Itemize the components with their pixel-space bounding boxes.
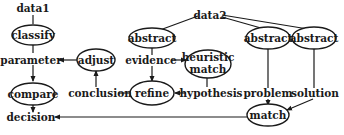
edge-data2-abstract1: [160, 16, 198, 30]
solution-label: solution: [291, 87, 339, 99]
data1-label: data1: [16, 2, 49, 14]
node-compare: compare: [8, 83, 59, 105]
refine-label: refine: [135, 87, 169, 99]
heuristic-match-label-1: heuristic: [182, 51, 235, 63]
edge-solution-match: [287, 99, 313, 110]
node-abstract-3: abstract: [290, 27, 339, 49]
abstract-2-label: abstract: [244, 32, 293, 44]
heuristic-match-label-2: match: [190, 63, 227, 75]
abstract-3-label: abstract: [290, 32, 339, 44]
problem-label: problem: [244, 87, 293, 99]
match-label: match: [250, 109, 287, 121]
node-classify: classify: [11, 25, 56, 45]
data2-label: data2: [193, 9, 226, 21]
evidence-label: evidence: [125, 54, 177, 66]
node-heuristic-match: heuristic match: [182, 50, 235, 78]
node-match: match: [247, 104, 289, 126]
conclusion-label: conclusion: [68, 87, 132, 99]
parameter-label: parameter: [0, 54, 62, 66]
adjust-label: adjust: [78, 54, 114, 66]
node-abstract-2: abstract: [244, 27, 293, 49]
decision-label: decision: [7, 111, 56, 123]
node-refine: refine: [130, 81, 174, 105]
node-adjust: adjust: [77, 49, 115, 71]
abstract-1-label: abstract: [128, 32, 177, 44]
classify-label: classify: [11, 29, 56, 41]
diagram-canvas: classify adjust compare abstract heurist…: [0, 0, 344, 135]
compare-label: compare: [8, 88, 59, 100]
hypothesis-label: hypothesis: [179, 87, 242, 99]
node-abstract-1: abstract: [128, 28, 177, 48]
